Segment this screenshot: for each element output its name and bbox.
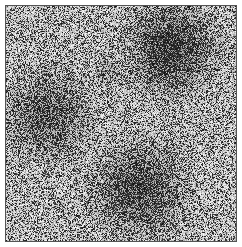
image-frame <box>5 5 237 242</box>
noise-texture-image <box>6 6 236 241</box>
